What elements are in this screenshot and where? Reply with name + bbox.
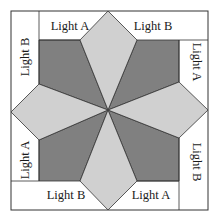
label-top-left: Light A: [51, 19, 90, 33]
label-top-right: Light B: [134, 19, 173, 33]
label-right-top: Light A: [190, 43, 204, 82]
label-bottom-right: Light A: [132, 188, 171, 202]
label-left-top: Light B: [18, 38, 32, 77]
label-left-bottom: Light A: [18, 141, 32, 180]
quilt-block-diagram: Light A Light B Light A Light B Light A …: [0, 0, 220, 222]
label-bottom-left: Light B: [47, 188, 86, 202]
label-right-bottom: Light B: [190, 143, 204, 182]
